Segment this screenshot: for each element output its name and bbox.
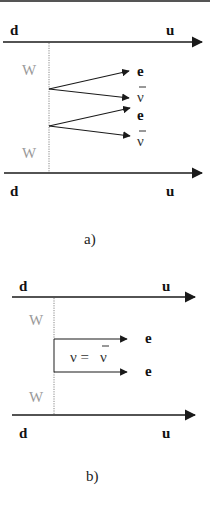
quark-label-u-bottom-b: u	[162, 425, 170, 441]
feynman-diagrams: d u W W e ν e ν d u a) d u W W	[0, 0, 210, 505]
antineutrino-label-upper: ν	[137, 89, 144, 105]
electron-label-lower: e	[137, 107, 144, 123]
quark-label-d-bottom-b: d	[19, 425, 28, 441]
quark-label-d-top-b: d	[19, 278, 28, 294]
diagram-a: d u W W e ν e ν d u a)	[3, 22, 202, 248]
antineutrino-line-lower	[49, 126, 130, 136]
majorana-label-left: ν =	[70, 349, 89, 365]
electron-line-upper	[49, 71, 129, 89]
electron-line-lower	[49, 108, 130, 126]
quark-label-d-bottom: d	[10, 183, 19, 199]
electron-label-upper-b: e	[145, 330, 152, 346]
electron-label-lower-b: e	[145, 363, 152, 379]
top-border	[0, 0, 210, 2]
quark-label-d-top: d	[10, 22, 19, 38]
w-label-lower: W	[22, 145, 37, 161]
w-label-upper-b: W	[29, 312, 44, 328]
caption-a: a)	[84, 231, 96, 248]
antineutrino-line-upper	[49, 89, 129, 98]
quark-label-u-top: u	[166, 22, 174, 38]
w-label-upper: W	[22, 62, 37, 78]
caption-b: b)	[86, 468, 99, 485]
quark-label-u-bottom: u	[166, 183, 174, 199]
majorana-label-right: ν	[100, 349, 107, 365]
antineutrino-label-lower: ν	[137, 133, 144, 149]
quark-label-u-top-b: u	[162, 278, 170, 294]
electron-label-upper: e	[137, 63, 144, 79]
w-label-lower-b: W	[29, 389, 44, 405]
diagram-b: d u W W e e ν = ν d u b)	[12, 278, 195, 485]
